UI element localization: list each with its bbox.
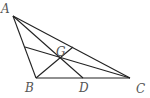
segment-ac (13, 16, 130, 78)
label-d: D (78, 81, 89, 95)
segment-ab (13, 16, 36, 78)
label-c: C (136, 82, 145, 96)
triangle-diagram: A B C D G (0, 0, 150, 98)
label-a: A (0, 2, 10, 16)
label-b: B (24, 81, 34, 95)
label-g: G (56, 45, 66, 59)
